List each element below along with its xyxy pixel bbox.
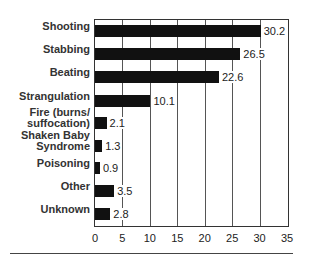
category-label: Beating: [50, 67, 90, 78]
x-tick-label: 35: [281, 232, 293, 244]
bar: [95, 48, 240, 60]
category-label: Poisoning: [37, 158, 90, 169]
bar: [95, 140, 102, 152]
x-tick-label: 15: [171, 232, 183, 244]
x-tick-label: 20: [199, 232, 211, 244]
bar: [95, 208, 110, 220]
x-tick-label: 25: [226, 232, 238, 244]
bar: [95, 95, 150, 107]
category-label: Stabbing: [43, 44, 90, 55]
bar: [95, 117, 107, 129]
value-label: 1.3: [104, 140, 121, 152]
x-tick-label: 30: [253, 232, 265, 244]
bar: [95, 185, 114, 197]
value-label: 2.1: [109, 117, 126, 129]
value-label: 0.9: [102, 162, 119, 174]
value-label: 3.5: [116, 185, 133, 197]
x-tick-label: 10: [144, 232, 156, 244]
plot-area: 30.226.522.610.12.11.30.93.52.8: [94, 19, 289, 227]
x-tick-label: 5: [119, 232, 125, 244]
value-label: 10.1: [152, 95, 175, 107]
bar: [95, 162, 100, 174]
value-label: 30.2: [263, 25, 286, 37]
category-label: Unknown: [41, 204, 91, 215]
value-label: 26.5: [242, 48, 265, 60]
category-label: Strangulation: [19, 91, 90, 102]
bar: [95, 25, 261, 37]
category-label: Shaken BabySyndrome: [21, 130, 90, 152]
x-tick-label: 0: [92, 232, 98, 244]
bar: [95, 71, 219, 83]
bottom-rule: [10, 253, 293, 254]
category-label: Fire (burns/suffocation): [27, 107, 90, 129]
value-label: 2.8: [112, 208, 129, 220]
value-label: 22.6: [221, 71, 244, 83]
category-label: Other: [61, 181, 90, 192]
category-label: Shooting: [42, 21, 90, 32]
